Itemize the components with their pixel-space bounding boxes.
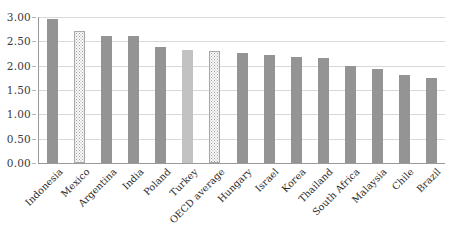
y-tick-label: 2.00: [7, 60, 31, 72]
y-tick-mark: [32, 139, 36, 140]
y-tick-label: 1.50: [7, 84, 31, 96]
bar-chart: 0.000.501.001.502.002.503.00 IndonesiaMe…: [0, 0, 456, 240]
y-tick-label: 1.00: [7, 108, 31, 120]
y-tick-mark: [32, 41, 36, 42]
bar: [155, 47, 166, 163]
x-axis-labels: IndonesiaMexicoArgentinaIndiaPolandTurke…: [39, 164, 445, 240]
y-axis: 0.000.501.001.502.002.503.00: [0, 17, 36, 163]
y-tick-mark: [32, 114, 36, 115]
y-tick-mark: [32, 66, 36, 67]
bar: [47, 19, 58, 163]
y-tick-label: 2.50: [7, 35, 31, 47]
y-tick-label: 0.00: [7, 157, 31, 169]
y-tick-label: 0.50: [7, 133, 31, 145]
y-tick-mark: [32, 163, 36, 164]
x-tick-label-text: Indonesia: [22, 166, 64, 208]
y-tick-mark: [32, 90, 36, 91]
y-tick-label: 3.00: [7, 11, 31, 23]
y-tick-mark: [32, 17, 36, 18]
x-tick-label-text: Chile: [390, 166, 416, 192]
